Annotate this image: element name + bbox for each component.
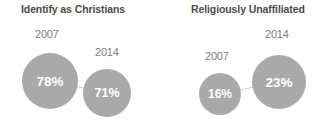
bubble-value-christians-2007: 78% <box>36 74 63 89</box>
bubble-chart-figure: Identify as Christians 2007 2014 78% 71%… <box>0 0 331 127</box>
bubble-value-unaffiliated-2007: 16% <box>208 87 232 101</box>
bubble-value-christians-2014: 71% <box>94 86 119 100</box>
bubble-group-christians: 78% 71% <box>0 0 166 127</box>
bubble-group-unaffiliated: 16% 23% <box>165 0 331 127</box>
panel-religiously-unaffiliated: Religiously Unaffiliated 2007 2014 16% 2… <box>165 0 331 127</box>
bubble-value-unaffiliated-2014: 23% <box>265 75 292 90</box>
panel-identify-as-christians: Identify as Christians 2007 2014 78% 71% <box>0 0 166 127</box>
